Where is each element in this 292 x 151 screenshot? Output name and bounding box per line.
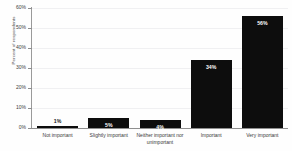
y-tick-mark xyxy=(28,28,32,29)
bar-chart: Percent of respondents 1%5%4%34%56% 0%10… xyxy=(0,0,292,151)
bar-value-label: 5% xyxy=(88,122,129,128)
y-tick-mark xyxy=(28,108,32,109)
y-tick-mark xyxy=(28,88,32,89)
bar[interactable]: 5% xyxy=(88,118,129,128)
y-tick-label: 0% xyxy=(0,125,26,130)
bar-value-label: 34% xyxy=(191,64,232,70)
gridline xyxy=(32,8,288,9)
bar-value-label: 1% xyxy=(37,118,78,124)
x-tick-label: Neither important nor unimportant xyxy=(134,132,185,145)
bar[interactable]: 56% xyxy=(242,16,283,128)
bar[interactable]: 34% xyxy=(191,60,232,128)
x-tick-label: Slightly important xyxy=(83,132,134,139)
x-tick-label: Important xyxy=(186,132,237,139)
x-tick-label: Very important xyxy=(237,132,288,139)
x-tick-label: Not important xyxy=(32,132,83,139)
y-tick-label: 40% xyxy=(0,45,26,50)
y-tick-mark xyxy=(28,68,32,69)
y-tick-label: 10% xyxy=(0,105,26,110)
plot-area: 1%5%4%34%56% xyxy=(32,8,288,128)
y-tick-mark xyxy=(28,128,32,129)
y-axis-title: Percent of respondents xyxy=(11,0,16,84)
bar-value-label: 4% xyxy=(140,124,181,130)
y-tick-label: 60% xyxy=(0,5,26,10)
y-tick-label: 50% xyxy=(0,25,26,30)
bar-value-label: 56% xyxy=(242,20,283,26)
y-tick-label: 30% xyxy=(0,65,26,70)
bar[interactable]: 1% xyxy=(37,126,78,128)
y-tick-mark xyxy=(28,8,32,9)
y-tick-label: 20% xyxy=(0,85,26,90)
bar[interactable]: 4% xyxy=(140,120,181,128)
y-tick-mark xyxy=(28,48,32,49)
